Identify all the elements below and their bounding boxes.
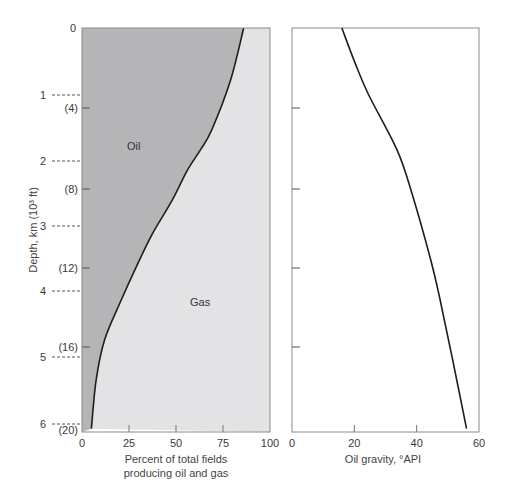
left-x-axis-title-line1: Percent of total fields	[125, 453, 228, 465]
right-panel-frame	[292, 28, 479, 432]
depth-km-tick-label: 4	[40, 285, 46, 297]
right-x-tick-label: 20	[348, 437, 360, 449]
left-x-tick-label: 0	[79, 437, 85, 449]
left-x-axis-title-line2: producing oil and gas	[124, 467, 229, 479]
right-x-tick-label: 40	[411, 437, 423, 449]
depth-km-tick-label: 0	[70, 22, 76, 34]
y-axis-title: Depth, km (10³ ft)	[27, 187, 39, 273]
left-x-tick-label: 75	[217, 437, 229, 449]
depth-km-tick-label: 6	[40, 418, 46, 430]
left-x-tick-label: 100	[261, 437, 279, 449]
left-x-tick-label: 50	[170, 437, 182, 449]
depth-ft-tick-label: (20)	[58, 424, 78, 436]
left-x-tick-label: 25	[123, 437, 135, 449]
depth-km-tick-label: 2	[40, 155, 46, 167]
right-panel: 0204060 Oil gravity, °API	[289, 28, 485, 465]
depth-ft-tick-label: (16)	[58, 341, 78, 353]
oil-label: Oil	[127, 140, 140, 152]
depth-ft-tick-label: (8)	[65, 183, 78, 195]
left-panel: 0255075100 0123456(4)(8)(12)(16)(20) Oil…	[27, 22, 279, 479]
right-x-axis-title: Oil gravity, °API	[345, 453, 421, 465]
depth-km-tick-label: 3	[40, 220, 46, 232]
gas-label: Gas	[190, 296, 211, 308]
depth-ft-tick-label: (12)	[58, 262, 78, 274]
right-x-tick-label: 60	[473, 437, 485, 449]
depth-ft-tick-label: (4)	[65, 102, 78, 114]
depth-chart: 0255075100 0123456(4)(8)(12)(16)(20) Oil…	[0, 0, 507, 498]
depth-km-tick-label: 5	[40, 351, 46, 363]
right-x-tick-label: 0	[289, 437, 295, 449]
depth-km-tick-label: 1	[40, 89, 46, 101]
